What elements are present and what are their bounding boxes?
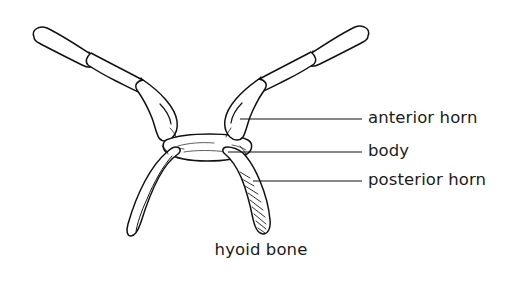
hyoid-bone-illustration [0,0,522,281]
right-horn-body-junction [225,79,266,140]
label-posterior-horn: posterior horn [368,170,486,189]
figure-caption: hyoid bone [0,240,522,259]
left-horn-body-junction [136,80,177,141]
label-anterior-horn: anterior horn [368,108,478,127]
label-body: body [368,141,409,160]
left-posterior-horn [127,147,180,236]
hyoid-bone-drawing [33,26,368,236]
figure-page: anterior horn body posterior horn hyoid … [0,0,522,281]
